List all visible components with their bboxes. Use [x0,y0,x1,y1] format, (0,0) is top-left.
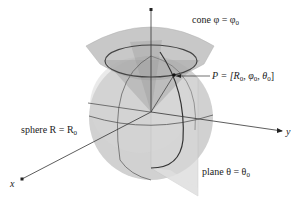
x-axis-label: x [9,178,15,189]
x-axis-arrow-icon [21,178,24,181]
spherical-coordinates-diagram: cone φ = φ0 P = [R0, φ0, θ0] sphere R = … [0,0,296,217]
point-p [172,73,176,77]
y-axis-label: y [285,126,291,137]
point-label: P = [R0, φ0, θ0] [211,70,274,83]
cone-label: cone φ = φ0 [192,14,240,27]
y-axis-arrow-icon [277,128,283,133]
z-axis-arrow-icon [150,8,153,11]
sphere-label: sphere R = R0 [21,124,78,137]
plane-label: plane θ = θ0 [202,166,250,179]
